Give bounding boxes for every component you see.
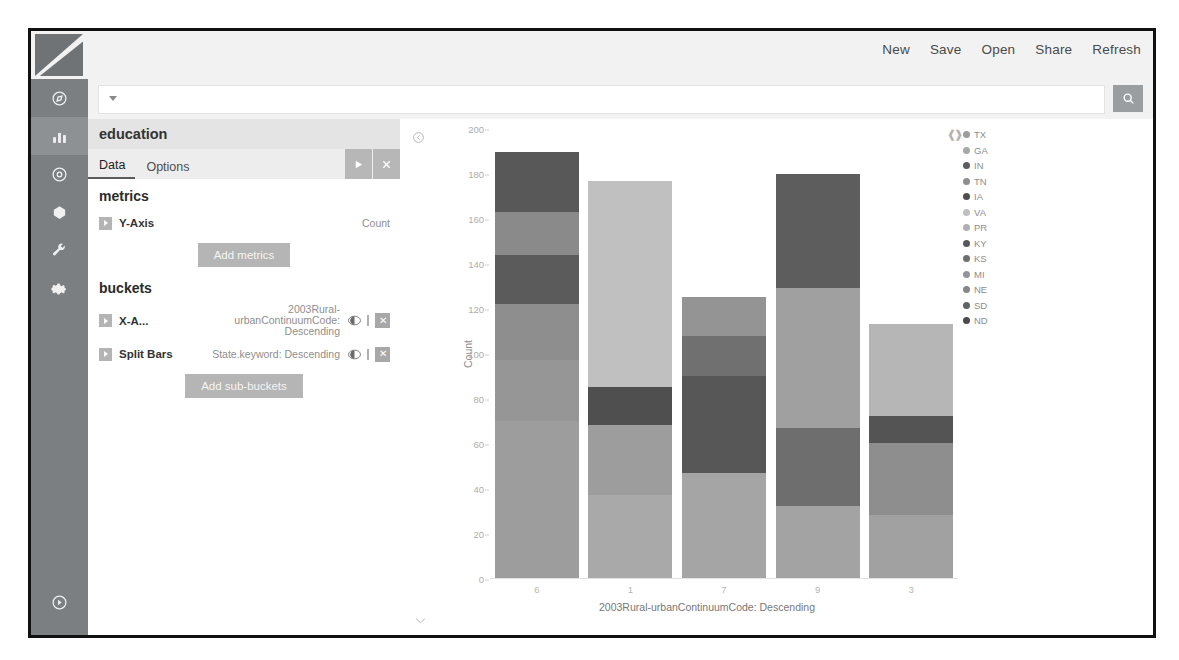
global-nav <box>31 31 88 635</box>
bar-segment[interactable] <box>682 473 766 579</box>
x-axis-title: 2003Rural-urbanContinuumCode: Descending <box>456 601 958 613</box>
top-nav-new[interactable]: New <box>882 42 910 57</box>
legend-item[interactable]: TX <box>963 127 1113 143</box>
collapse-nav-button[interactable] <box>31 583 88 621</box>
y-axis-tick: 80 <box>473 394 484 405</box>
legend-color-dot <box>963 240 970 247</box>
bar-segment[interactable] <box>495 212 579 255</box>
bar-segment[interactable] <box>776 428 860 507</box>
toggle-visibility-icon[interactable] <box>348 349 361 360</box>
stacked-bar[interactable] <box>776 174 860 578</box>
bar-segment[interactable] <box>869 515 953 578</box>
y-axis-tick: 20 <box>473 529 484 540</box>
x-axis-tick: 1 <box>628 584 633 595</box>
sidebar-item-dashboard[interactable] <box>31 155 88 193</box>
top-nav-open[interactable]: Open <box>981 42 1015 57</box>
remove-bucket-button[interactable]: ✕ <box>375 347 390 362</box>
legend-color-dot <box>963 162 970 169</box>
drag-handle[interactable] <box>367 315 369 326</box>
legend-item[interactable]: ND <box>963 313 1113 329</box>
drag-handle[interactable] <box>367 349 369 360</box>
legend-label: NE <box>974 284 987 295</box>
bar-segment[interactable] <box>495 360 579 421</box>
collapse-sidebar-icon[interactable] <box>412 131 425 144</box>
legend-item[interactable]: NE <box>963 282 1113 298</box>
bar-segment[interactable] <box>588 495 672 578</box>
top-nav-refresh[interactable]: Refresh <box>1092 42 1141 57</box>
chevron-right-icon[interactable] <box>99 314 112 327</box>
bar-segment[interactable] <box>869 324 953 416</box>
legend-color-dot <box>963 193 970 200</box>
legend-label: TN <box>974 176 987 187</box>
y-axis-tick: 40 <box>473 484 484 495</box>
apply-changes-button[interactable] <box>345 149 372 179</box>
legend-item[interactable]: KY <box>963 236 1113 252</box>
legend-item[interactable]: MI <box>963 267 1113 283</box>
search-input[interactable] <box>98 85 1105 114</box>
sidebar-item-management[interactable] <box>31 269 88 307</box>
legend-color-dot <box>963 302 970 309</box>
legend-item[interactable]: KS <box>963 251 1113 267</box>
top-nav-save[interactable]: Save <box>930 42 962 57</box>
y-axis-tick: 0 <box>479 574 484 585</box>
sidebar-item-visualize[interactable] <box>31 117 88 155</box>
bar-segment[interactable] <box>682 336 766 376</box>
legend-item[interactable]: TN <box>963 174 1113 190</box>
play-icon <box>353 159 364 170</box>
add-sub-buckets-button[interactable]: Add sub-buckets <box>185 374 303 398</box>
collapse-legend-icon[interactable]: ❰❱ <box>947 128 961 141</box>
sidebar-item-discover[interactable] <box>31 79 88 117</box>
top-nav-share[interactable]: Share <box>1035 42 1072 57</box>
tab-options[interactable]: Options <box>135 160 199 179</box>
search-button[interactable] <box>1113 85 1143 112</box>
add-metrics-button[interactable]: Add metrics <box>198 243 291 267</box>
bar-segment[interactable] <box>682 297 766 335</box>
y-axis-tick: 180 <box>468 169 484 180</box>
bar-segment[interactable] <box>495 255 579 304</box>
top-bar: New Save Open Share Refresh <box>88 31 1153 79</box>
stacked-bar[interactable] <box>682 297 766 578</box>
remove-bucket-button[interactable]: ✕ <box>375 313 390 328</box>
bar-segment[interactable] <box>869 416 953 443</box>
bar-segment[interactable] <box>495 421 579 578</box>
bar-segment[interactable] <box>588 387 672 425</box>
stacked-bar[interactable] <box>588 181 672 578</box>
toggle-visibility-icon[interactable] <box>348 315 361 326</box>
tab-data[interactable]: Data <box>88 158 135 179</box>
legend-item[interactable]: PR <box>963 220 1113 236</box>
bar-column: 1 <box>584 129 678 578</box>
discard-changes-button[interactable] <box>373 149 400 179</box>
bar-segment[interactable] <box>588 181 672 388</box>
bar-segment[interactable] <box>495 152 579 213</box>
legend-label: ND <box>974 315 988 326</box>
stacked-bar[interactable] <box>869 324 953 578</box>
legend-item[interactable]: IA <box>963 189 1113 205</box>
sidebar-item-dev-tools[interactable] <box>31 231 88 269</box>
chevron-right-icon[interactable] <box>99 217 112 230</box>
bucket-row-split-bars[interactable]: Split Bars State.keyword: Descending ✕ <box>88 340 400 368</box>
collapse-spy-panel-icon[interactable] <box>414 614 427 627</box>
caret-down-icon[interactable] <box>109 96 117 101</box>
stacked-bar[interactable] <box>495 151 579 578</box>
editor-tab-actions <box>344 149 400 179</box>
legend-item[interactable]: IN <box>963 158 1113 174</box>
legend-label: VA <box>974 207 986 218</box>
bar-segment[interactable] <box>869 443 953 515</box>
bar-segment[interactable] <box>776 174 860 288</box>
bucket-row-x-axis[interactable]: X-A... 2003Rural-urbanContinuumCode: Des… <box>88 301 400 340</box>
bar-segment[interactable] <box>776 288 860 427</box>
chevron-right-icon[interactable] <box>99 348 112 361</box>
bar-segment[interactable] <box>588 425 672 495</box>
metric-row-y-axis[interactable]: Y-Axis Count <box>88 209 400 237</box>
bar-segment[interactable] <box>682 376 766 473</box>
legend-item[interactable]: GA <box>963 143 1113 159</box>
bar-column: 6 <box>490 129 584 578</box>
bar-segment[interactable] <box>776 506 860 578</box>
legend-label: GA <box>974 145 988 156</box>
legend-item[interactable]: SD <box>963 298 1113 314</box>
bucket-label: X-A... <box>119 315 148 327</box>
legend-item[interactable]: VA <box>963 205 1113 221</box>
legend-color-dot <box>963 286 970 293</box>
sidebar-item-timelion[interactable] <box>31 193 88 231</box>
bar-segment[interactable] <box>495 304 579 360</box>
